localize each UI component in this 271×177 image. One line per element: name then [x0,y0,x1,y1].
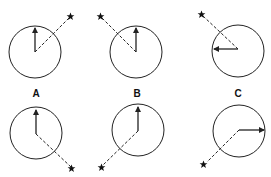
label-a: A [32,88,39,99]
dashed-line [103,131,138,165]
panel-bottom-c [200,105,265,168]
panel-top-a [9,12,74,78]
dashed-line [101,17,136,52]
panel-top-b [97,12,162,78]
panel-bottom-b [98,104,164,171]
panel-top-c [198,10,264,77]
label-c: C [234,88,241,99]
circle [212,25,264,77]
star-icon [200,160,208,167]
label-b: B [133,88,140,99]
dashed-line [203,16,238,49]
panel-bottom-a [10,107,75,172]
star-icon [98,163,106,170]
dashed-line [36,134,71,167]
dashed-line [35,17,70,52]
dashed-line [207,130,239,162]
circle [213,105,265,157]
